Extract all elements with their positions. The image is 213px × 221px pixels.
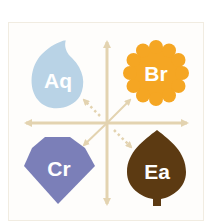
- br-flower-shape: Br: [123, 40, 189, 106]
- quadrant-diagram: Aq Br Cr Ea: [0, 0, 213, 221]
- dotted-arrow-to-ea: [114, 130, 131, 147]
- cr-label: Cr: [47, 157, 70, 180]
- arrow-to-br: [107, 100, 130, 123]
- arrow-to-cr: [84, 123, 107, 145]
- ea-label: Ea: [144, 160, 170, 183]
- ea-leaf-shape: Ea: [127, 130, 186, 206]
- dotted-arrow-to-aq: [84, 100, 100, 116]
- aq-label: Aq: [44, 69, 72, 92]
- aq-drop-shape: Aq: [32, 40, 84, 108]
- cr-gem-shape: Cr: [24, 137, 95, 204]
- br-label: Br: [144, 62, 167, 85]
